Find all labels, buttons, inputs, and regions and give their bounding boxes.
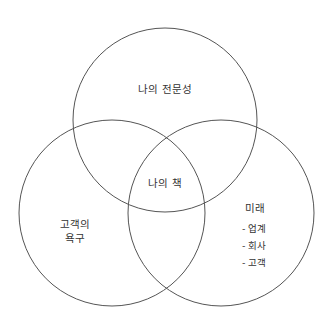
venn-diagram: [0, 0, 332, 329]
label-customer-needs-line1: 고객의: [55, 217, 95, 231]
circle-future: [128, 120, 314, 306]
future-item-industry: - 업계: [242, 220, 266, 237]
label-expertise: 나의 전문성: [135, 82, 195, 96]
circle-customer-needs: [19, 120, 205, 306]
label-intersection-my-book: 나의 책: [140, 176, 190, 190]
label-future: 미래: [245, 201, 265, 215]
future-items-list: - 업계 - 회사 - 고객: [242, 220, 266, 271]
label-customer-needs: 고객의 욕구: [55, 217, 95, 245]
future-item-customer: - 고객: [242, 254, 266, 271]
label-customer-needs-line2: 욕구: [55, 231, 95, 245]
future-item-company: - 회사: [242, 237, 266, 254]
